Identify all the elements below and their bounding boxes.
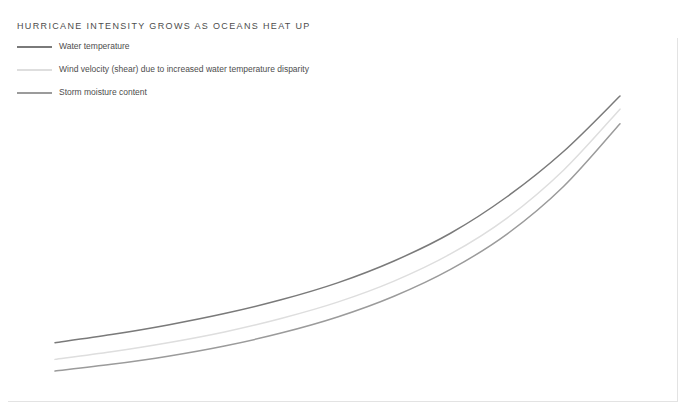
chart-line-series [55,109,620,359]
chart-plot-area [0,0,685,414]
chart-figure: HURRICANE INTENSITY GROWS AS OCEANS HEAT… [0,0,685,414]
chart-line-series [55,124,620,371]
chart-lines-svg [0,0,685,414]
chart-line-series [55,96,620,343]
